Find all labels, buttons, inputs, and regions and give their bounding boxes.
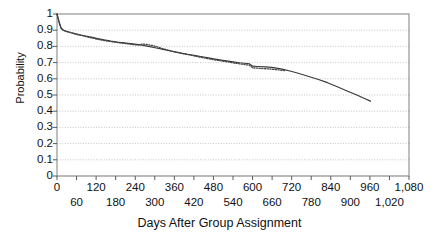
- survival-probability-chart: Probability 00.10.20.30.40.50.60.70.80.9…: [0, 0, 439, 243]
- x-axis-title: Days After Group Assignment: [0, 216, 439, 230]
- plot-canvas: [0, 0, 439, 243]
- series-solid-curve: [57, 14, 371, 101]
- series-dotted-curve: [57, 14, 285, 71]
